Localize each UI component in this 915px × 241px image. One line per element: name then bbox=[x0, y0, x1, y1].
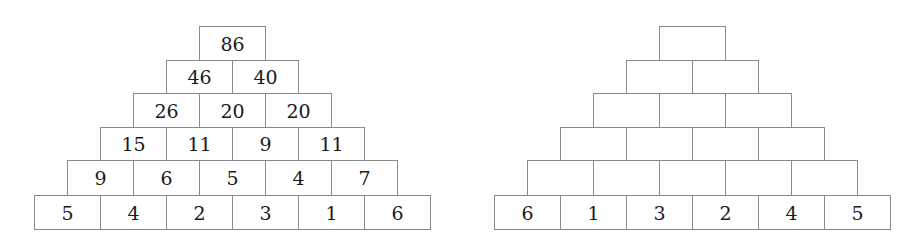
pyramid-cell bbox=[527, 160, 594, 196]
base-cell: 5 bbox=[824, 195, 891, 230]
right-number-pyramid: 613245 bbox=[0, 0, 915, 241]
pyramid-cell bbox=[593, 160, 660, 196]
pyramid-cell bbox=[659, 160, 726, 196]
pyramid-cell bbox=[626, 60, 693, 94]
pyramid-cell bbox=[758, 127, 825, 161]
pyramid-cell bbox=[626, 127, 693, 161]
pyramid-cell bbox=[725, 160, 792, 196]
base-cell: 6 bbox=[494, 195, 561, 230]
pyramid-cell bbox=[659, 26, 726, 61]
pyramid-cell bbox=[659, 93, 726, 128]
pyramid-cell bbox=[692, 60, 759, 94]
pyramid-cell bbox=[593, 93, 660, 128]
pyramid-cell bbox=[560, 127, 627, 161]
base-cell: 2 bbox=[692, 195, 759, 230]
base-cell: 3 bbox=[626, 195, 693, 230]
base-cell: 4 bbox=[758, 195, 825, 230]
pyramid-cell bbox=[791, 160, 858, 196]
pyramid-cell bbox=[692, 127, 759, 161]
base-cell: 1 bbox=[560, 195, 627, 230]
pyramid-cell bbox=[725, 93, 792, 128]
